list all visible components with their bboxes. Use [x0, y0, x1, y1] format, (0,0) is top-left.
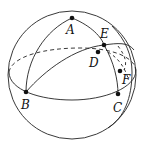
point-c — [116, 92, 121, 97]
point-d — [96, 50, 101, 55]
equator-back-arc — [9, 48, 136, 72]
label-d: D — [88, 56, 99, 70]
point-a — [70, 16, 75, 21]
point-e — [102, 43, 107, 48]
label-c: C — [113, 101, 122, 115]
diagram-canvas: A B C D E F — [0, 0, 142, 144]
sphere-diagram: A B C D E F — [0, 0, 142, 144]
arc-back-e-f — [118, 46, 126, 70]
point-b — [24, 90, 29, 95]
label-e: E — [99, 27, 109, 41]
label-f: F — [121, 73, 131, 87]
label-b: B — [20, 98, 30, 112]
label-a: A — [65, 23, 75, 37]
